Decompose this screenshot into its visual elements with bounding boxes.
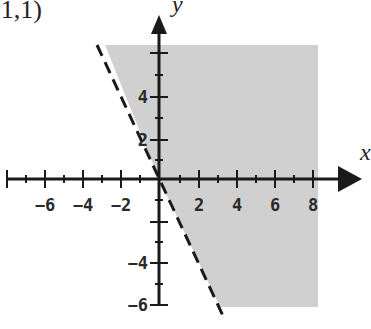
y-tick-label: −4 bbox=[128, 253, 148, 273]
inequality-graph: −6 −4 −2 2 4 6 8 4 2 −4 −6 x y (1,1) bbox=[0, 0, 371, 329]
x-tick-label: −4 bbox=[73, 195, 93, 215]
y-tick-label: −6 bbox=[128, 295, 148, 315]
y-axis-arrow-icon bbox=[151, 15, 167, 34]
x-tick-label: −6 bbox=[35, 195, 55, 215]
x-tick-label: −2 bbox=[111, 195, 131, 215]
y-tick-label: 4 bbox=[138, 87, 148, 107]
x-tick-label: 6 bbox=[270, 195, 280, 215]
y-axis-label: y bbox=[170, 0, 183, 17]
x-tick-label: 8 bbox=[308, 195, 318, 215]
x-axis-label: x bbox=[359, 139, 371, 165]
x-tick-label: 4 bbox=[232, 195, 242, 215]
x-axis-arrow-icon bbox=[338, 166, 362, 192]
y-tick-label: 2 bbox=[138, 130, 148, 150]
point-label: (1,1) bbox=[0, 0, 42, 24]
x-tick-label: 2 bbox=[194, 195, 204, 215]
